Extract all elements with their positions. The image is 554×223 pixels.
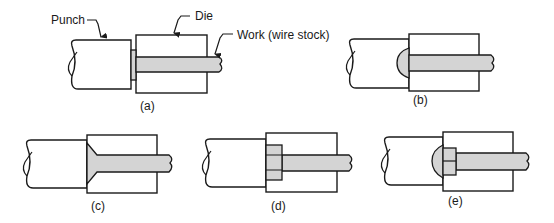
die-leader-arrow-icon (174, 16, 190, 33)
hex-head (266, 145, 282, 180)
caption-b: (b) (413, 93, 428, 107)
work-end (131, 50, 136, 80)
die-label: Die (195, 9, 213, 23)
caption-e: (e) (448, 194, 463, 208)
panel-e: (e) (381, 132, 528, 208)
work-wire-stock (409, 55, 494, 71)
work-leader-arrow-icon (215, 34, 233, 54)
panel-c: (c) (23, 135, 171, 213)
work-wire-stock (456, 153, 529, 170)
caption-c: (c) (91, 199, 105, 213)
panel-d: (d) (202, 133, 351, 213)
caption-d: (d) (271, 199, 286, 213)
punch-label: Punch (51, 13, 85, 27)
punch-leader-arrow-icon (87, 20, 101, 37)
work-wire-stock (136, 57, 222, 72)
work-label: Work (wire stock) (237, 28, 329, 42)
punch (72, 40, 132, 89)
panel-b: (b) (346, 34, 493, 107)
punch (206, 139, 267, 187)
panel-a: Punch Die Work (wire stock) (a) (51, 9, 329, 113)
caption-a: (a) (140, 99, 155, 113)
work-wire-stock (282, 155, 352, 171)
heading-diagram: Punch Die Work (wire stock) (a) (b) (c) … (0, 0, 554, 223)
punch (27, 140, 88, 188)
